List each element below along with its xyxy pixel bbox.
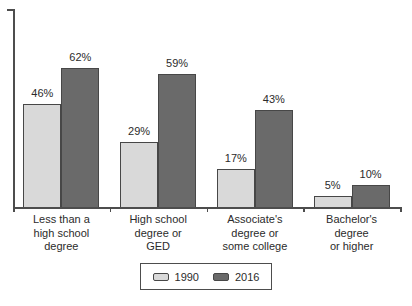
legend-label-2016: 2016 [235,271,259,283]
bar-1990-category-1 [23,104,61,208]
x-axis-tick [400,207,402,212]
x-axis-tick [303,207,305,212]
legend: 1990 2016 [140,263,272,290]
category-label-4: Bachelor's degree or higher [302,213,402,254]
bar-2016-category-1 [61,68,99,208]
bar-1990-category-4 [314,196,352,207]
bar-2016-category-3 [255,110,293,207]
y-axis [13,9,15,207]
bar-2016-category-4 [352,185,390,208]
bar-1990-category-3 [217,169,255,207]
value-label-2016-category-3: 43% [246,93,302,106]
x-axis-tick [13,207,15,212]
category-label-3: Associate's degree or some college [205,213,305,254]
legend-label-1990: 1990 [175,271,199,283]
legend-swatch-1990 [153,273,169,281]
bar-1990-category-2 [120,142,158,207]
x-axis-tick [207,207,209,212]
legend-swatch-2016 [213,273,229,281]
value-label-2016-category-4: 10% [343,168,399,181]
bar-chart-figure: 46%62%29%59%17%43%5%10% Less than a high… [0,0,412,306]
legend-item-1990: 1990 [153,271,199,283]
value-label-2016-category-1: 62% [52,51,108,64]
legend-item-2016: 2016 [213,271,259,283]
value-label-2016-category-2: 59% [149,57,205,70]
x-axis-tick [110,207,112,212]
category-label-1: Less than a high school degree [11,213,111,254]
bar-2016-category-2 [158,74,196,207]
category-label-2: High school degree or GED [108,213,208,254]
